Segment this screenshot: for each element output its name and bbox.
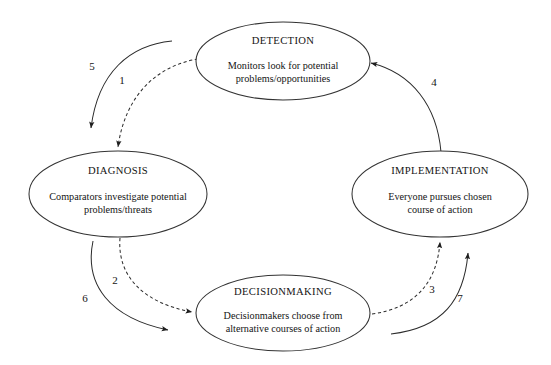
node-implementation-body-line1: Everyone pursues chosen xyxy=(388,191,492,202)
arc-5-label: 5 xyxy=(89,60,95,72)
node-detection-title: DETECTION xyxy=(252,35,315,46)
node-detection-body-line1: Monitors look for potential xyxy=(228,60,339,71)
arc-1-path xyxy=(118,59,198,147)
node-decisionmaking[interactable]: DECISIONMAKING Decisionmakers choose fro… xyxy=(196,275,370,351)
node-decisionmaking-body-line2: alternative courses of action xyxy=(226,323,341,334)
node-decisionmaking-title: DECISIONMAKING xyxy=(234,286,332,297)
cycle-diagram-canvas: 5 1 6 2 3 7 4 xyxy=(0,0,551,365)
node-diagnosis-body-line1: Comparators investigate potential xyxy=(49,191,187,202)
arc-3-group: 3 xyxy=(372,242,440,314)
arc-2-path xyxy=(120,238,192,312)
arc-1-group: 1 xyxy=(118,59,198,147)
arc-4-label: 4 xyxy=(431,76,437,88)
arc-5-path xyxy=(91,41,172,128)
arc-6-path xyxy=(91,241,168,330)
node-detection[interactable]: DETECTION Monitors look for potential pr… xyxy=(196,22,370,100)
node-detection-body-line2: problems/opportunities xyxy=(236,73,331,84)
node-diagnosis-body-line2: problems/threats xyxy=(84,204,152,215)
arc-5-group: 5 xyxy=(89,41,172,128)
node-implementation-title: IMPLEMENTATION xyxy=(391,165,489,176)
node-diagnosis[interactable]: DIAGNOSIS Comparators investigate potent… xyxy=(29,151,207,237)
arc-7-label: 7 xyxy=(457,292,463,304)
node-implementation-body-line2: course of action xyxy=(407,204,472,215)
arc-4-group: 4 xyxy=(371,63,441,152)
arc-1-label: 1 xyxy=(119,74,125,86)
arc-2-label: 2 xyxy=(112,274,118,286)
arc-3-path xyxy=(372,242,440,314)
cycle-diagram: 5 1 6 2 3 7 4 xyxy=(0,0,551,365)
node-implementation[interactable]: IMPLEMENTATION Everyone pursues chosen c… xyxy=(352,151,528,237)
arc-6-group: 6 xyxy=(82,241,168,330)
arc-3-label: 3 xyxy=(429,283,435,295)
arc-2-group: 2 xyxy=(112,238,192,312)
node-diagnosis-title: DIAGNOSIS xyxy=(88,165,148,176)
node-decisionmaking-body-line1: Decisionmakers choose from xyxy=(224,310,343,321)
arc-6-label: 6 xyxy=(82,292,88,304)
